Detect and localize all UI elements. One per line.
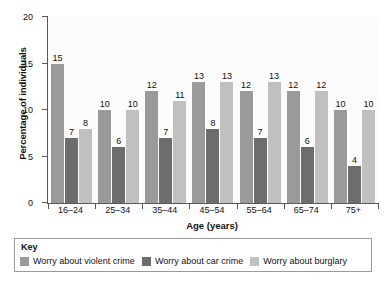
bar-slot: 7 bbox=[159, 17, 172, 203]
bar-value-label: 10 bbox=[128, 100, 138, 109]
y-axis-tick-label: 5 bbox=[28, 152, 33, 162]
bar-slot: 12 bbox=[145, 17, 158, 203]
legend-swatch-icon bbox=[20, 257, 29, 266]
bar-value-label: 8 bbox=[83, 119, 88, 128]
bar-value-label: 13 bbox=[222, 72, 232, 81]
bar-slot: 6 bbox=[301, 17, 314, 203]
plot-area: 05101520 1578106101271113813127131261210… bbox=[47, 17, 378, 204]
x-axis-tick-label: 25–34 bbox=[94, 205, 141, 215]
y-axis-tick-label: 15 bbox=[23, 59, 33, 69]
bar-value-label: 6 bbox=[305, 137, 310, 146]
bar[interactable] bbox=[126, 110, 139, 203]
bar-value-label: 15 bbox=[53, 54, 63, 63]
legend-item-label: Worry about burglary bbox=[263, 256, 347, 266]
bar-slot: 15 bbox=[51, 17, 64, 203]
bar-slot: 10 bbox=[126, 17, 139, 203]
bar-slot: 10 bbox=[334, 17, 347, 203]
y-axis-title: Percentage of individuals bbox=[17, 4, 28, 204]
bar-group: 12612 bbox=[284, 17, 331, 203]
bar[interactable] bbox=[206, 129, 219, 203]
bar-value-label: 7 bbox=[69, 128, 74, 137]
bar-value-label: 4 bbox=[352, 156, 357, 165]
bar-value-label: 12 bbox=[316, 81, 326, 90]
x-axis-tick bbox=[378, 203, 379, 209]
bar[interactable] bbox=[98, 110, 111, 203]
y-axis-tick-label: 0 bbox=[28, 198, 33, 208]
bar-slot: 6 bbox=[112, 17, 125, 203]
bar-value-label: 12 bbox=[147, 81, 157, 90]
legend-item-label: Worry about violent crime bbox=[33, 256, 135, 266]
bar-group: 12713 bbox=[237, 17, 284, 203]
bar-value-label: 6 bbox=[116, 137, 121, 146]
y-axis-tick-label: 10 bbox=[23, 105, 33, 115]
bar-value-label: 7 bbox=[258, 128, 263, 137]
bar-slot: 12 bbox=[287, 17, 300, 203]
bar-slot: 10 bbox=[98, 17, 111, 203]
bar[interactable] bbox=[79, 129, 92, 203]
bar-slot: 7 bbox=[254, 17, 267, 203]
bar[interactable] bbox=[254, 138, 267, 203]
legend-item[interactable]: Worry about burglary bbox=[250, 256, 347, 266]
bar-slot: 10 bbox=[362, 17, 375, 203]
x-axis-tick-label: 65–74 bbox=[283, 205, 330, 215]
bar[interactable] bbox=[192, 82, 205, 203]
x-axis-title: Age (years) bbox=[47, 220, 377, 231]
bar-slot: 4 bbox=[348, 17, 361, 203]
bar-group: 1578 bbox=[48, 17, 95, 203]
bar[interactable] bbox=[348, 166, 361, 203]
bar[interactable] bbox=[268, 82, 281, 203]
x-axis-tick-labels: 16–2425–3435–4445–5455–6465–7475+ bbox=[47, 205, 377, 215]
bar[interactable] bbox=[362, 110, 375, 203]
bar-slot: 12 bbox=[240, 17, 253, 203]
bar-value-label: 7 bbox=[163, 128, 168, 137]
bar-group: 12711 bbox=[142, 17, 189, 203]
bar-slot: 13 bbox=[192, 17, 205, 203]
bar[interactable] bbox=[159, 138, 172, 203]
bar[interactable] bbox=[51, 64, 64, 204]
bar-group: 13813 bbox=[189, 17, 236, 203]
bar-value-label: 13 bbox=[194, 72, 204, 81]
bar-value-label: 12 bbox=[288, 81, 298, 90]
bar-value-label: 8 bbox=[210, 119, 215, 128]
bar-group: 10410 bbox=[331, 17, 378, 203]
bar-slot: 8 bbox=[206, 17, 219, 203]
legend-items: Worry about violent crimeWorry about car… bbox=[20, 256, 367, 266]
legend-item-label: Worry about car crime bbox=[155, 256, 243, 266]
bar[interactable] bbox=[334, 110, 347, 203]
bar-value-label: 10 bbox=[363, 100, 373, 109]
x-axis-tick-label: 16–24 bbox=[47, 205, 94, 215]
bar-chart-figure: Percentage of individuals 05101520 15781… bbox=[0, 0, 389, 283]
bar[interactable] bbox=[112, 147, 125, 203]
legend-title: Key bbox=[21, 242, 38, 252]
bar-slot: 12 bbox=[315, 17, 328, 203]
bar-slot: 13 bbox=[268, 17, 281, 203]
y-axis-tick-label: 20 bbox=[23, 12, 33, 22]
x-axis-tick-label: 45–54 bbox=[188, 205, 235, 215]
bar[interactable] bbox=[173, 101, 186, 203]
bar-value-label: 13 bbox=[269, 72, 279, 81]
bar-group: 10610 bbox=[95, 17, 142, 203]
bar-value-label: 12 bbox=[241, 81, 251, 90]
bar-slot: 7 bbox=[65, 17, 78, 203]
bar-value-label: 10 bbox=[335, 100, 345, 109]
legend-swatch-icon bbox=[250, 257, 259, 266]
bar-groups: 1578106101271113813127131261210410 bbox=[48, 17, 378, 203]
bar[interactable] bbox=[65, 138, 78, 203]
bar-slot: 13 bbox=[220, 17, 233, 203]
x-axis-tick-label: 55–64 bbox=[236, 205, 283, 215]
x-axis-tick-label: 75+ bbox=[330, 205, 377, 215]
bar-value-label: 10 bbox=[100, 100, 110, 109]
bar[interactable] bbox=[220, 82, 233, 203]
x-axis-tick-label: 35–44 bbox=[141, 205, 188, 215]
bar[interactable] bbox=[145, 91, 158, 203]
bar[interactable] bbox=[240, 91, 253, 203]
bar[interactable] bbox=[287, 91, 300, 203]
bar[interactable] bbox=[301, 147, 314, 203]
legend-item[interactable]: Worry about violent crime bbox=[20, 256, 135, 266]
bar-value-label: 11 bbox=[175, 91, 184, 100]
legend-box: Key Worry about violent crimeWorry about… bbox=[14, 238, 372, 272]
legend-item[interactable]: Worry about car crime bbox=[142, 256, 243, 266]
bar-slot: 11 bbox=[173, 17, 186, 203]
bar[interactable] bbox=[315, 91, 328, 203]
bar-slot: 8 bbox=[79, 17, 92, 203]
